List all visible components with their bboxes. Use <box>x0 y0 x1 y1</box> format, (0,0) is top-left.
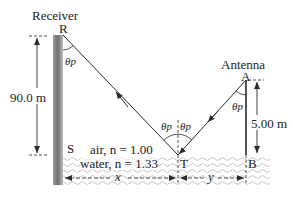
air-label: air, n = 1.00 <box>90 143 153 156</box>
point-s-label: S <box>67 142 74 155</box>
point-b-label: B <box>248 157 257 170</box>
y-distance-label: y <box>208 170 214 183</box>
point-a-label: A <box>241 70 250 83</box>
point-t-label: T <box>180 157 188 170</box>
receiver-label: Receiver <box>32 9 78 22</box>
point-r-label: R <box>59 22 68 35</box>
theta-p-label-t-left: θp <box>161 121 172 132</box>
reflected-ray <box>63 35 178 155</box>
height-antenna-label: 5.00 m <box>251 117 287 130</box>
theta-p-label-a: θp <box>232 101 243 112</box>
receiver-wall <box>53 35 63 185</box>
x-distance-label: x <box>115 170 121 183</box>
theta-p-label-t-right: θp <box>180 121 191 132</box>
theta-p-label-r: θp <box>65 56 76 67</box>
height-receiver-label: 90.0 m <box>10 91 46 104</box>
